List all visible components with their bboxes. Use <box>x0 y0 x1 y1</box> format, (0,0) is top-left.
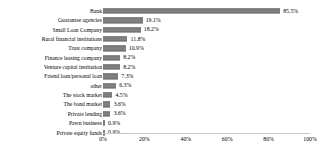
bar <box>103 18 143 23</box>
bar-row: Rural financial institutions11.8% <box>0 34 335 43</box>
category-label: The stock market <box>63 92 102 98</box>
bar-value-label: 3.6% <box>114 111 126 117</box>
bar-value-label: 0.9% <box>108 120 120 126</box>
category-label: The bond market <box>63 101 102 107</box>
x-tick-label: 0% <box>99 136 107 143</box>
bar <box>103 36 127 41</box>
bar-row: Pawn business0.9% <box>0 119 335 128</box>
bar-with-label: 3.6% <box>103 102 126 107</box>
bar <box>103 121 105 126</box>
bar <box>103 55 120 60</box>
bar-row: Finance leasing company8.2% <box>0 53 335 62</box>
category-label: Finance leasing company <box>45 55 102 61</box>
x-axis-tick-labels: 0%20%40%60%80%100% <box>0 134 335 148</box>
bar-value-label: 4.5% <box>116 92 128 98</box>
bar-chart: Bank85.5%Guarantee agencies19.1%Small Lo… <box>0 0 335 152</box>
category-label: other <box>90 83 102 89</box>
bar-value-label: 8.2% <box>123 64 135 70</box>
bar-row: Venture capital institution8.2% <box>0 62 335 71</box>
bar <box>103 102 110 107</box>
bar-with-label: 85.5% <box>103 8 298 13</box>
bar <box>103 111 110 116</box>
bar <box>103 46 126 51</box>
bar-row: Private lending3.6% <box>0 109 335 118</box>
bar-row: The stock market4.5% <box>0 90 335 99</box>
category-label: Bank <box>90 8 102 14</box>
category-label: Private lending <box>68 111 102 117</box>
x-tick-label: 60% <box>222 136 233 143</box>
x-tick-label: 20% <box>139 136 150 143</box>
bar-with-label: 4.5% <box>103 93 128 98</box>
bar <box>103 93 112 98</box>
bar-value-label: 8.2% <box>123 55 135 61</box>
bar-row: Trust company10.9% <box>0 44 335 53</box>
bar-with-label: 10.9% <box>103 46 144 51</box>
bar-row: The bond market3.6% <box>0 100 335 109</box>
bar-row: other6.3% <box>0 81 335 90</box>
category-label: Guarantee agencies <box>58 17 102 23</box>
bar-row: Bank85.5% <box>0 6 335 15</box>
bar-row: Small Loan Company18.2% <box>0 25 335 34</box>
bar-value-label: 10.9% <box>129 45 144 51</box>
bar-with-label: 0.9% <box>103 121 120 126</box>
bar-value-label: 6.3% <box>119 83 131 89</box>
bar <box>103 65 120 70</box>
bar-with-label: 8.2% <box>103 65 135 70</box>
bar-value-label: 3.6% <box>114 101 126 107</box>
x-tick-label: 80% <box>263 136 274 143</box>
bar-value-label: 85.5% <box>283 8 298 14</box>
bar-with-label: 19.1% <box>103 18 161 23</box>
bar <box>103 74 118 79</box>
bar <box>103 83 116 88</box>
bar-with-label: 6.3% <box>103 83 131 88</box>
category-label: Small Loan Company <box>53 27 102 33</box>
category-label: Pawn business <box>69 120 102 126</box>
category-label: Friend loan/personal loan <box>44 73 102 79</box>
bar-value-label: 18.2% <box>144 27 159 33</box>
bar-with-label: 11.8% <box>103 36 145 41</box>
bar-row: Guarantee agencies19.1% <box>0 16 335 25</box>
bar-value-label: 7.3% <box>121 73 133 79</box>
category-label: Trust company <box>68 45 102 51</box>
bar-with-label: 18.2% <box>103 27 159 32</box>
bar <box>103 8 280 13</box>
bar <box>103 27 141 32</box>
x-tick-label: 100% <box>303 136 317 143</box>
plot-area: Bank85.5%Guarantee agencies19.1%Small Lo… <box>0 0 335 136</box>
bar-value-label: 19.1% <box>146 17 161 23</box>
category-label: Venture capital institution <box>44 64 102 70</box>
bar-with-label: 3.6% <box>103 111 126 116</box>
x-tick-label: 40% <box>180 136 191 143</box>
category-label: Rural financial institutions <box>42 36 102 42</box>
bar-value-label: 11.8% <box>131 36 146 42</box>
bar-row: Friend loan/personal loan7.3% <box>0 72 335 81</box>
bar-with-label: 8.2% <box>103 55 135 60</box>
bar-with-label: 7.3% <box>103 74 133 79</box>
